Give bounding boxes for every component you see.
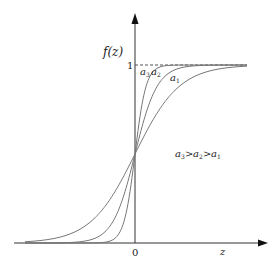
svg-text:2: 2 <box>157 71 161 78</box>
y-axis-label: f(z) <box>102 45 123 59</box>
svg-text:1: 1 <box>176 77 180 84</box>
curve-label-a2: a 2 <box>151 66 161 78</box>
x-axis-arrow-icon <box>258 240 268 247</box>
svg-text:3: 3 <box>146 71 150 78</box>
x-axis-label: z <box>219 246 226 257</box>
y-axis-arrow-icon <box>132 13 139 24</box>
y-tick-label-1: 1 <box>127 60 133 71</box>
slope-annotation: a 3 > a 2 > a 1 <box>175 148 221 160</box>
sigmoid-chart: f(z) 1 0 z a 3 a 2 a 1 a 3 > a 2 > a 1 <box>0 0 279 270</box>
curve-label-a1: a 1 <box>170 72 180 84</box>
x-tick-label-0: 0 <box>132 247 138 258</box>
svg-text:1: 1 <box>217 153 221 160</box>
curve-label-a3: a 3 <box>140 66 150 78</box>
